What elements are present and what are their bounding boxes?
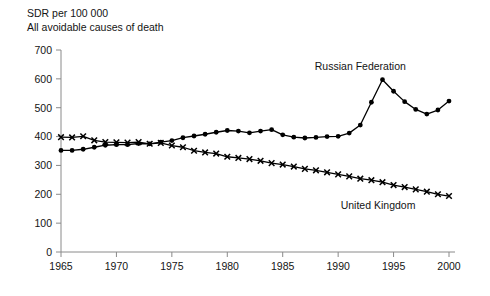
data-point <box>402 99 407 104</box>
data-point <box>81 147 86 152</box>
data-point <box>380 77 385 82</box>
data-point <box>413 107 418 112</box>
series-label-russian-federation: Russian Federation <box>315 60 406 72</box>
x-tick-label: 1965 <box>49 260 73 272</box>
data-point <box>258 129 263 134</box>
x-tick-label: 1970 <box>105 260 129 272</box>
data-point <box>424 112 429 117</box>
data-point <box>225 128 230 133</box>
data-point <box>214 130 219 135</box>
y-tick-label: 300 <box>34 159 52 171</box>
x-axis-group: 19651970197519801985199019952000 <box>49 252 461 272</box>
y-tick-label: 700 <box>34 44 52 56</box>
data-point <box>336 134 341 139</box>
x-tick-label: 1995 <box>382 260 406 272</box>
data-point <box>436 108 441 113</box>
y-tick-label: 100 <box>34 217 52 229</box>
x-tick-label: 1985 <box>271 260 295 272</box>
data-point <box>391 89 396 94</box>
data-point <box>269 127 274 132</box>
data-point <box>314 135 319 140</box>
chart-plot-area: 0100200300400500600700 19651970197519801… <box>0 0 490 296</box>
data-point <box>192 134 197 139</box>
x-tick-label: 1980 <box>216 260 240 272</box>
series-annotation-layer: Russian FederationUnited Kingdom <box>315 60 416 212</box>
y-axis-group: 0100200300400500600700 <box>34 44 61 258</box>
data-point <box>291 135 296 140</box>
data-point <box>59 148 64 153</box>
data-point <box>325 134 330 139</box>
data-point <box>302 136 307 141</box>
x-tick-label: 1975 <box>160 260 184 272</box>
x-tick-label: 1990 <box>326 260 350 272</box>
data-point <box>369 100 374 105</box>
data-point <box>203 132 208 137</box>
y-tick-label: 0 <box>46 246 52 258</box>
data-point <box>358 123 363 128</box>
y-tick-group: 0100200300400500600700 <box>34 44 61 258</box>
y-tick-label: 200 <box>34 188 52 200</box>
chart-container: SDR per 100 000 All avoidable causes of … <box>0 0 490 296</box>
data-point <box>280 132 285 137</box>
series-label-united-kingdom: United Kingdom <box>341 199 416 211</box>
data-point <box>70 148 75 153</box>
data-point <box>169 138 174 143</box>
data-point <box>247 130 252 135</box>
data-point <box>236 129 241 134</box>
y-tick-label: 500 <box>34 102 52 114</box>
x-tick-label: 2000 <box>437 260 461 272</box>
data-point <box>347 131 352 136</box>
y-tick-label: 400 <box>34 130 52 142</box>
series-united-kingdom <box>58 133 452 198</box>
data-point <box>447 99 452 104</box>
x-tick-group: 19651970197519801985199019952000 <box>49 252 461 272</box>
data-point <box>181 135 186 140</box>
data-series-layer <box>58 77 452 198</box>
y-tick-label: 600 <box>34 73 52 85</box>
data-point <box>92 145 97 150</box>
